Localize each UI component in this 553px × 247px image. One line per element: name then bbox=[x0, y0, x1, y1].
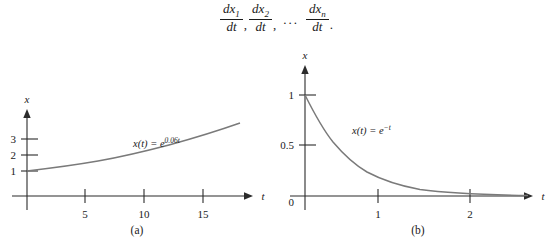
x-axis-label-a: t bbox=[261, 190, 265, 202]
x-tick-label-1-b: 1 bbox=[375, 208, 381, 220]
curve-annotation-b-exponent: −t bbox=[384, 123, 392, 132]
derivative-subscript-1: 1 bbox=[235, 9, 240, 19]
derivative-subscript-2: 2 bbox=[264, 9, 269, 19]
equation-display: dx1 dt , dx2 dt , ... dxn dt . bbox=[0, 2, 553, 34]
curve-exponential-decay bbox=[305, 95, 528, 196]
curve-annotation-a: x(t) = e0.06t bbox=[132, 136, 181, 150]
derivative-numerator-n: dxn bbox=[306, 2, 329, 19]
chart-exponential-decay: 1 0.5 0 1 2 x t x(t) = e−t bbox=[280, 40, 553, 247]
x-axis-label-b: t bbox=[541, 190, 545, 202]
caption-b: (b) bbox=[388, 224, 448, 236]
derivative-term-2: dx2 dt bbox=[249, 2, 272, 34]
ellipsis: ... bbox=[283, 8, 299, 28]
comma-1: , bbox=[244, 17, 247, 34]
y-axis-label-b: x bbox=[302, 49, 308, 61]
x-tick-label-5-a: 5 bbox=[82, 208, 88, 220]
x-tick-label-2-b: 2 bbox=[467, 208, 473, 220]
curve-annotation-b-base: x(t) = e bbox=[351, 125, 384, 137]
derivative-subscript-n: n bbox=[321, 9, 326, 19]
chart-exponential-growth: 1 2 3 5 10 15 x t x(t) = e0.06t bbox=[0, 55, 280, 247]
x-tick-label-10-a: 10 bbox=[139, 208, 151, 220]
equation-row: dx1 dt , dx2 dt , ... dxn dt . bbox=[219, 2, 334, 34]
y-tick-label-1-b: 1 bbox=[289, 89, 295, 101]
y-axis-arrowhead-a bbox=[23, 109, 30, 118]
derivative-denominator-2: dt bbox=[252, 20, 268, 34]
chart-b-svg: 1 0.5 0 1 2 x t x(t) = e−t bbox=[280, 40, 553, 247]
comma-2: , bbox=[273, 17, 276, 34]
derivative-denominator-n: dt bbox=[309, 20, 325, 34]
curve-annotation-a-exponent: 0.06t bbox=[165, 136, 181, 145]
derivative-denominator-1: dt bbox=[223, 20, 239, 34]
period-end: . bbox=[330, 17, 333, 34]
curve-annotation-a-base: x(t) = e bbox=[132, 138, 165, 150]
derivative-numerator-2: dx2 bbox=[249, 2, 272, 19]
chart-a-svg: 1 2 3 5 10 15 x t x(t) = e0.06t bbox=[0, 55, 280, 247]
y-tick-label-3-a: 3 bbox=[11, 133, 17, 145]
y-tick-label-2-a: 2 bbox=[11, 149, 17, 161]
derivative-numerator-1: dx1 bbox=[220, 2, 243, 19]
y-axis-label-a: x bbox=[24, 93, 30, 105]
x-tick-label-15-a: 15 bbox=[198, 208, 210, 220]
y-axis-arrowhead-b bbox=[301, 65, 308, 74]
derivative-term-n: dxn dt bbox=[306, 2, 329, 34]
y-tick-label-0-b: 0 bbox=[289, 196, 295, 208]
y-tick-label-05-b: 0.5 bbox=[280, 139, 294, 151]
derivative-term-1: dx1 dt bbox=[220, 2, 243, 34]
y-tick-label-1-a: 1 bbox=[11, 165, 17, 177]
x-axis-arrowhead-a bbox=[244, 192, 253, 199]
caption-a: (a) bbox=[107, 224, 167, 236]
curve-annotation-b: x(t) = e−t bbox=[351, 123, 392, 137]
